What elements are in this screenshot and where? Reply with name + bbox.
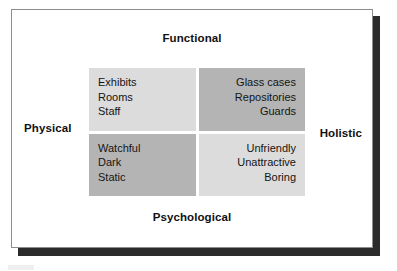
quadrant-item: Repositories: [208, 90, 297, 105]
quadrant-item: Static: [98, 170, 187, 185]
axis-label-bottom: Psychological: [12, 211, 372, 223]
figure-frame: Functional Physical Holistic Psychologic…: [11, 9, 373, 248]
quadrant-item: Dark: [98, 155, 187, 170]
quadrant-item: Staff: [98, 104, 187, 119]
figure-root: Functional Physical Holistic Psychologic…: [0, 0, 397, 271]
quadrant-item: Exhibits: [98, 75, 187, 90]
quadrant-item: Boring: [208, 170, 297, 185]
quadrant-item: Guards: [208, 104, 297, 119]
axis-label-top: Functional: [12, 32, 372, 44]
quadrant-item: Glass cases: [208, 75, 297, 90]
quadrant-item: Unfriendly: [208, 141, 297, 156]
axis-label-left: Physical: [24, 122, 71, 134]
page-scan-artifact: [8, 265, 34, 270]
quadrant-bottom-left: Watchful Dark Static: [89, 134, 196, 197]
quadrant-item: Rooms: [98, 90, 187, 105]
quadrant-item: Unattractive: [208, 155, 297, 170]
quadrant-matrix: Exhibits Rooms Staff Glass cases Reposit…: [89, 68, 305, 196]
quadrant-top-left: Exhibits Rooms Staff: [89, 68, 196, 131]
quadrant-top-right: Glass cases Repositories Guards: [199, 68, 306, 131]
diagram-area: Functional Physical Holistic Psychologic…: [12, 10, 372, 247]
quadrant-item: Watchful: [98, 141, 187, 156]
quadrant-bottom-right: Unfriendly Unattractive Boring: [199, 134, 306, 197]
axis-label-right: Holistic: [320, 127, 362, 139]
